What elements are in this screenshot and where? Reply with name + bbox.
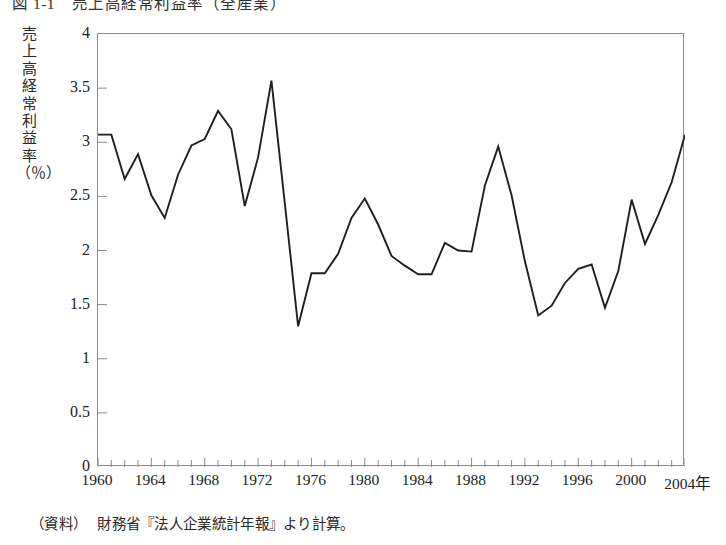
y-tick-label: 1 bbox=[50, 349, 90, 367]
x-tick-label: 2004年 bbox=[664, 471, 711, 493]
y-axis-tick-labels: 00.511.522.533.54 bbox=[48, 0, 90, 545]
line-chart-svg bbox=[98, 34, 685, 467]
source-label: （資料） bbox=[30, 516, 87, 532]
x-tick-label: 1964 bbox=[135, 471, 166, 489]
x-tick-label: 1976 bbox=[295, 471, 326, 489]
y-tick-label: 1.5 bbox=[50, 295, 90, 313]
source-note: （資料）財務省『法人企業統計年報』より計算。 bbox=[30, 512, 355, 533]
x-axis-tick-labels: 1960196419681972197619801984198819921996… bbox=[97, 471, 717, 495]
data-series-line bbox=[98, 81, 685, 327]
y-tick-label: 0.5 bbox=[50, 403, 90, 421]
source-text: 財務省『法人企業統計年報』より計算。 bbox=[97, 516, 354, 532]
x-tick-label: 1988 bbox=[455, 471, 486, 489]
y-tick-label: 4 bbox=[50, 24, 90, 42]
y-tick-label: 2.5 bbox=[50, 186, 90, 204]
y-axis-caption: 売上高経常利益率（％） bbox=[16, 26, 42, 183]
y-tick-label: 3.5 bbox=[50, 78, 90, 96]
x-tick-label: 1984 bbox=[402, 471, 433, 489]
figure-root: 図 1-1 売上高経常利益率（全産業） 売上高経常利益率（％） 00.511.5… bbox=[0, 0, 726, 545]
y-tick-label: 3 bbox=[50, 132, 90, 150]
y-tick-label: 2 bbox=[50, 241, 90, 259]
x-tick-label: 2000 bbox=[615, 471, 646, 489]
x-tick-label: 1960 bbox=[82, 471, 113, 489]
x-tick-label: 1996 bbox=[562, 471, 593, 489]
x-minor-ticks bbox=[98, 458, 685, 467]
x-tick-label: 1972 bbox=[242, 471, 273, 489]
y-axis-ticks bbox=[98, 88, 107, 413]
plot-area bbox=[97, 33, 684, 466]
x-tick-label: 1992 bbox=[508, 471, 539, 489]
x-tick-label: 1968 bbox=[188, 471, 219, 489]
x-tick-label: 1980 bbox=[348, 471, 379, 489]
